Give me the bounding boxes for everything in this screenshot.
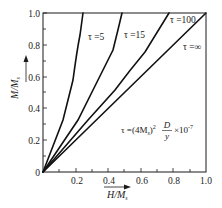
y-axis-label-group: M/Ms [9, 55, 29, 100]
curve-tau-15 [43, 13, 122, 172]
formula-denominator: y [164, 131, 169, 141]
x-tick-label: 0.6 [136, 176, 148, 186]
formula-lhs: τ =(4M [121, 125, 147, 135]
x-tick-label: 0.8 [168, 176, 180, 186]
x-tick-label: 0.4 [103, 176, 115, 186]
x-tick-label: 1.0 [200, 176, 212, 186]
y-axis-label: M/Ms [9, 76, 21, 99]
x-axis-label-group: H/Ms [104, 185, 131, 202]
magnetization-chart: 1.0 0.8 0.6 0.4 0.2 0 0.2 0.4 0.6 0.8 1.… [0, 0, 222, 208]
y-tick-label: 1.0 [28, 9, 40, 19]
origin-label: 0 [35, 168, 40, 178]
x-tick-label: 0.2 [71, 176, 83, 186]
curve-label-tau-5: τ =5 [88, 32, 105, 42]
y-axis-arrowhead [24, 55, 29, 62]
curve-tau-100 [43, 13, 169, 172]
formula-numerator: D [163, 120, 171, 130]
formula-exp: -7 [188, 124, 193, 130]
formula-annotation: τ =(4Ms)2 D y ×10-7 [121, 120, 193, 141]
curve-label-tau-100: τ =100 [170, 15, 196, 25]
formula-tail: ×10 [174, 125, 189, 135]
x-axis-ticks [59, 168, 190, 172]
svg-text:τ =(4Ms)2: τ =(4Ms)2 [121, 124, 156, 136]
y-tick-label: 0.8 [28, 41, 40, 51]
y-tick-label: 0.4 [28, 104, 40, 114]
x-axis-label: H/Ms [106, 189, 128, 201]
y-tick-label: 0.6 [28, 73, 40, 83]
curve-label-tau-inf: τ =∞ [183, 42, 202, 52]
svg-text:×10-7: ×10-7 [174, 124, 193, 135]
curve-label-tau-15: τ =15 [124, 30, 145, 40]
y-axis-ticks [43, 13, 47, 156]
y-tick-label: 0.2 [28, 136, 40, 146]
formula-sup: 2 [153, 124, 156, 130]
